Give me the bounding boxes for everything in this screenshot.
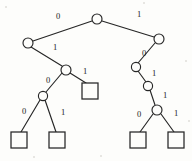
edge-label: 0 (46, 76, 50, 85)
edge-label: 0 (142, 49, 146, 58)
tree-internal-node (152, 105, 162, 115)
edge-label: 1 (152, 69, 156, 78)
leaves-group (11, 83, 184, 148)
scan-speck (100, 155, 102, 157)
tree-edge (150, 90, 155, 105)
tree-edge (138, 43, 155, 63)
tree-edge (140, 114, 153, 132)
edge-label: 0 (137, 110, 141, 119)
tree-edge (31, 47, 62, 66)
tree-internal-node (131, 62, 140, 71)
tree-leaf-node (168, 132, 184, 148)
edge-label: 1 (83, 67, 87, 76)
tree-edge (138, 71, 146, 82)
edge-label: 1 (174, 109, 178, 118)
tree-leaf-node (82, 83, 98, 99)
edge-label: 1 (53, 43, 57, 52)
scan-speck (188, 120, 190, 122)
edge-label: 1 (163, 91, 167, 100)
binary-tree-diagram: 011010101101 (0, 0, 192, 161)
tree-leaf-node (49, 132, 65, 148)
tree-internal-node (23, 38, 33, 48)
scan-speck (33, 156, 35, 158)
scan-speck (5, 6, 7, 8)
tree-internal-node (143, 81, 152, 90)
scan-speck (185, 60, 187, 62)
nodes-group (23, 14, 164, 115)
tree-graphics (0, 0, 192, 161)
edge-label: 1 (137, 10, 141, 19)
tree-edge (45, 100, 56, 132)
tree-edge (33, 21, 92, 41)
tree-internal-node (92, 14, 102, 24)
tree-edge (161, 114, 174, 132)
tree-internal-node (154, 34, 164, 44)
tree-internal-node (38, 91, 47, 100)
scan-speck (143, 2, 145, 4)
edge-label: 0 (22, 107, 26, 116)
tree-leaf-node (11, 132, 27, 148)
edge-label: 1 (61, 108, 65, 117)
edge-label: 0 (56, 12, 60, 21)
tree-internal-node (61, 65, 71, 75)
tree-edge (102, 21, 154, 37)
tree-leaf-node (130, 132, 146, 148)
